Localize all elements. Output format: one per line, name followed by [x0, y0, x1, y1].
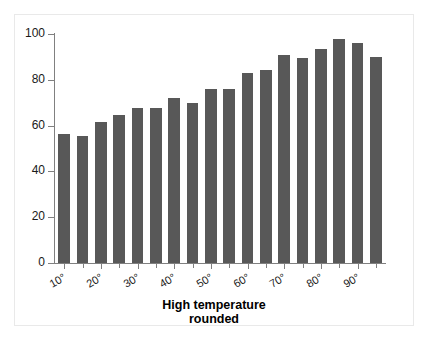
y-tick-80 — [48, 80, 55, 81]
bar — [168, 98, 179, 263]
x-tick-60 — [248, 264, 249, 269]
y-tick-40 — [48, 171, 55, 172]
bar — [95, 122, 106, 263]
x-tick-minor-75 — [303, 264, 304, 268]
x-tick-label-10: 10° — [47, 271, 67, 290]
bar — [187, 103, 198, 263]
x-tick-label-60: 60° — [231, 271, 251, 290]
x-tick-minor-85 — [339, 264, 340, 268]
x-tick-90 — [358, 264, 359, 269]
x-tick-10 — [64, 264, 65, 269]
x-tick-label-70: 70° — [267, 271, 287, 290]
y-tick-100 — [48, 34, 55, 35]
y-tick-label-100: 100 — [15, 26, 45, 40]
x-tick-minor-35 — [156, 264, 157, 268]
bar — [150, 108, 161, 263]
x-tick-label-50: 50° — [194, 271, 214, 290]
y-tick-label-80: 80 — [15, 72, 45, 86]
x-tick-20 — [101, 264, 102, 269]
x-tick-label-20: 20° — [84, 271, 104, 290]
bar — [113, 115, 124, 263]
x-axis-title: High temperature rounded — [15, 298, 413, 326]
x-tick-minor-95 — [376, 264, 377, 268]
x-tick-30 — [138, 264, 139, 269]
y-tick-label-20: 20 — [15, 209, 45, 223]
y-tick-label-40: 40 — [15, 163, 45, 177]
x-axis-line — [54, 263, 386, 264]
x-tick-label-90: 90° — [341, 271, 361, 290]
y-tick-20 — [48, 217, 55, 218]
x-tick-minor-25 — [119, 264, 120, 268]
bar — [58, 134, 69, 263]
chart-frame: 020406080100 10°20°30°40°50°60°70°80°90°… — [14, 14, 414, 326]
x-tick-70 — [284, 264, 285, 269]
bar — [205, 89, 216, 263]
x-tick-label-40: 40° — [157, 271, 177, 290]
bar — [260, 70, 271, 264]
x-axis-title-line1: High temperature — [15, 298, 413, 312]
bar — [132, 108, 143, 263]
bar — [297, 58, 308, 263]
bar — [352, 43, 363, 263]
x-tick-40 — [174, 264, 175, 269]
bar — [278, 55, 289, 263]
x-axis-title-line2: rounded — [15, 312, 413, 326]
bar — [370, 57, 381, 263]
bar — [223, 89, 234, 263]
bar — [242, 73, 253, 263]
x-tick-minor-55 — [229, 264, 230, 268]
x-tick-50 — [211, 264, 212, 269]
bar — [333, 39, 344, 263]
y-tick-label-60: 60 — [15, 118, 45, 132]
plot-area — [55, 34, 385, 263]
bar — [77, 136, 88, 263]
y-tick-0 — [48, 263, 55, 264]
x-tick-80 — [321, 264, 322, 269]
y-tick-label-0: 0 — [15, 255, 45, 269]
y-tick-60 — [48, 126, 55, 127]
x-tick-label-80: 80° — [304, 271, 324, 290]
x-tick-minor-65 — [266, 264, 267, 268]
x-tick-label-30: 30° — [121, 271, 141, 290]
bar — [315, 49, 326, 263]
x-tick-minor-45 — [193, 264, 194, 268]
x-tick-minor-15 — [83, 264, 84, 268]
